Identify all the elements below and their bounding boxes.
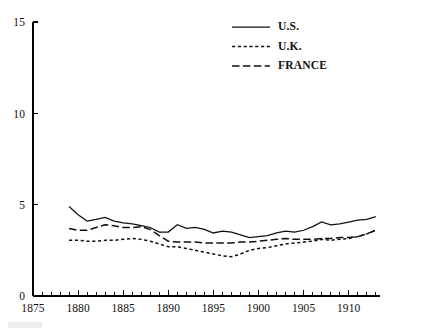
- x-axis-tick-label: 1910: [337, 302, 361, 314]
- chart-figure: 05101518751880188518901895190019051910 U…: [0, 0, 433, 335]
- series-line-us: [69, 206, 376, 237]
- x-axis-tick-label: 1905: [292, 302, 316, 314]
- legend-label-uk: U.K.: [278, 40, 302, 52]
- x-axis-tick-label: 1895: [202, 302, 226, 314]
- series-line-france: [69, 225, 376, 243]
- y-axis-tick-label: 15: [13, 16, 25, 28]
- y-axis-tick-label: 5: [19, 199, 25, 211]
- x-axis-tick-label: 1885: [111, 302, 135, 314]
- line-chart-canvas: 05101518751880188518901895190019051910 U…: [0, 0, 433, 335]
- x-axis-tick-label: 1900: [247, 302, 271, 314]
- x-axis-tick-label: 1890: [157, 302, 181, 314]
- chart-series: [69, 206, 376, 256]
- x-axis-tick-label: 1875: [21, 302, 45, 314]
- y-axis-tick-label: 10: [13, 108, 25, 120]
- legend-label-us: U.S.: [278, 20, 299, 32]
- legend-label-france: FRANCE: [278, 59, 327, 71]
- x-axis-tick-label: 1880: [66, 302, 90, 314]
- chart-axes: [33, 22, 380, 296]
- page-artifact: [8, 322, 42, 328]
- y-axis-tick-label: 0: [19, 290, 25, 302]
- chart-legend: U.S.U.K.FRANCE: [232, 20, 327, 71]
